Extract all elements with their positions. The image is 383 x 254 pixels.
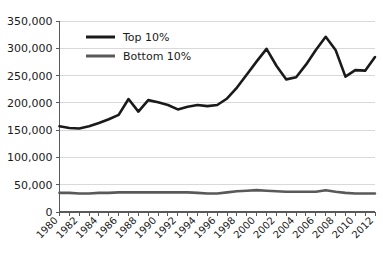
- y-axis-tick-label: 200,000: [7, 97, 53, 110]
- y-axis-tick-label: 150,000: [7, 124, 53, 137]
- legend-label-2: Bottom 10%: [123, 50, 191, 63]
- y-axis-tick-label: 350,000: [7, 15, 53, 28]
- y-axis-tick-label: 250,000: [7, 70, 53, 83]
- line-chart: 050,000100,000150,000200,000250,000300,0…: [0, 0, 383, 254]
- y-axis-tick-label: 50,000: [14, 179, 53, 192]
- y-axis-tick-label: 100,000: [7, 151, 53, 164]
- legend-label-1: Top 10%: [122, 31, 170, 44]
- chart-canvas: 050,000100,000150,000200,000250,000300,0…: [0, 0, 383, 254]
- y-axis-tick-label: 300,000: [7, 42, 53, 55]
